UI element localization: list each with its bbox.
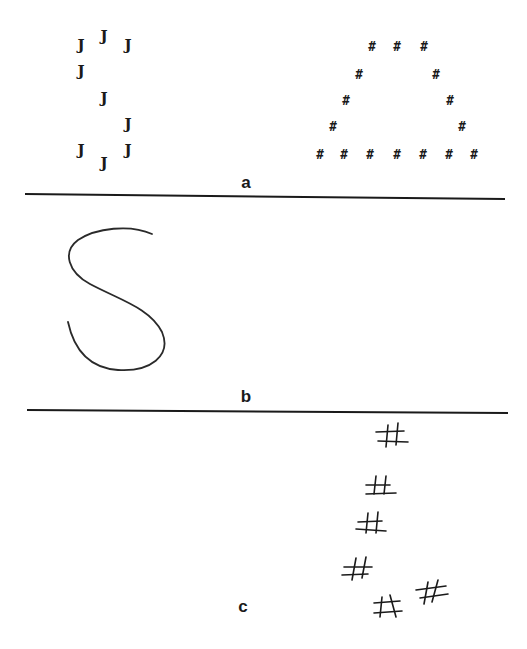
- hand-hash-icon: [356, 512, 386, 533]
- hand-hash-icon: [416, 580, 448, 604]
- hand-drawn-hash-marks: [342, 423, 448, 617]
- hand-hash-icon: [376, 423, 408, 447]
- hand-drawn-s-curve: [68, 228, 164, 370]
- figure-drawings: [0, 0, 527, 649]
- hand-hash-icon: [342, 557, 372, 580]
- divider-line-a-b: [25, 194, 505, 199]
- hand-hash-icon: [374, 595, 402, 617]
- divider-line-b-c: [27, 410, 508, 413]
- hand-hash-icon: [366, 476, 396, 494]
